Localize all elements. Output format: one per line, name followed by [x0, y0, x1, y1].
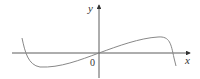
x-axis-label: x [184, 54, 190, 66]
function-graph: y x 0 [0, 0, 200, 79]
origin-label: 0 [90, 57, 95, 68]
y-axis-label: y [87, 2, 93, 14]
